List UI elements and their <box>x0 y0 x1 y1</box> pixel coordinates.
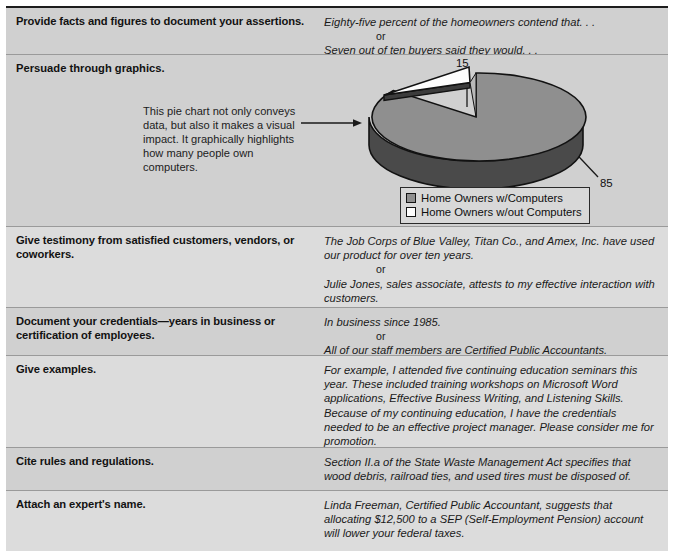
example-line: For example, I attended five continuing … <box>324 363 656 448</box>
table-row: Give examples. For example, I attended f… <box>6 356 668 448</box>
table-row: Attach an expert's name. Linda Freeman, … <box>6 491 668 551</box>
or-separator: or <box>324 262 656 276</box>
example-cell: Section II.a of the State Waste Manageme… <box>316 448 668 490</box>
legend-swatch-icon <box>406 207 416 217</box>
example-line: Julie Jones, sales associate, attests to… <box>324 277 656 305</box>
pie-gap-face <box>470 73 476 117</box>
pie-chart: 15 85 Home Owners w/Computers Home Owner… <box>336 55 668 227</box>
table-row: Cite rules and regulations. Section II.a… <box>6 448 668 491</box>
example-cell: Linda Freeman, Certified Public Accounta… <box>316 491 668 551</box>
example-line: In business since 1985. <box>324 315 656 329</box>
techniques-table: Provide facts and figures to document yo… <box>6 6 668 529</box>
legend-item: Home Owners w/Computers <box>406 191 582 205</box>
technique-label: Persuade through graphics. <box>16 62 165 74</box>
technique-label: Provide facts and figures to document yo… <box>6 8 316 54</box>
technique-label: Document your credentials—years in busin… <box>6 308 316 355</box>
legend-swatch-icon <box>406 193 416 203</box>
table-row: Document your credentials—years in busin… <box>6 308 668 356</box>
technique-label: Cite rules and regulations. <box>6 448 316 490</box>
example-cell: Eighty-five percent of the homeowners co… <box>316 8 668 54</box>
example-cell: The Job Corps of Blue Valley, Titan Co.,… <box>316 227 668 307</box>
pie-slice-gray-top <box>372 73 586 161</box>
legend-label: Home Owners w/out Computers <box>421 205 582 219</box>
example-line: Section II.a of the State Waste Manageme… <box>324 455 656 483</box>
example-line: The Job Corps of Blue Valley, Titan Co.,… <box>324 234 656 262</box>
example-line: Linda Freeman, Certified Public Accounta… <box>324 498 656 541</box>
or-separator: or <box>324 29 656 43</box>
chart-legend: Home Owners w/Computers Home Owners w/ou… <box>400 187 590 224</box>
legend-label: Home Owners w/Computers <box>421 191 563 205</box>
technique-label: Give examples. <box>6 356 316 447</box>
or-separator: or <box>324 329 656 343</box>
pie-data-label-85: 85 <box>600 177 613 189</box>
technique-label: Attach an expert's name. <box>6 491 316 551</box>
chart-callout-text: This pie chart not only conveys data, bu… <box>143 104 305 174</box>
technique-label: Give testimony from satisfied customers,… <box>6 227 316 307</box>
pie-data-label-15: 15 <box>456 57 469 69</box>
example-cell: In business since 1985. or All of our st… <box>316 308 668 355</box>
table-row: Provide facts and figures to document yo… <box>6 8 668 55</box>
table-row-graphics: Persuade through graphics. This pie char… <box>6 55 668 227</box>
legend-item: Home Owners w/out Computers <box>406 205 582 219</box>
table-row: Give testimony from satisfied customers,… <box>6 227 668 308</box>
example-cell: For example, I attended five continuing … <box>316 356 668 447</box>
example-line: Eighty-five percent of the homeowners co… <box>324 15 656 29</box>
pie-chart-graphic <box>336 55 668 187</box>
